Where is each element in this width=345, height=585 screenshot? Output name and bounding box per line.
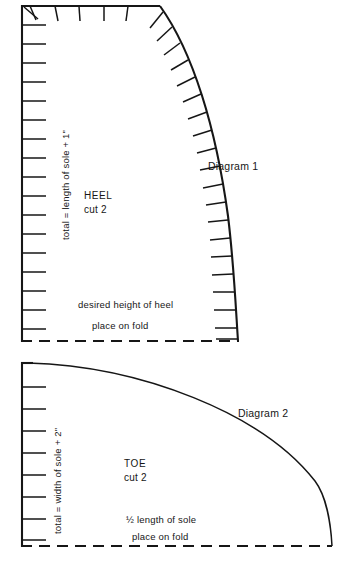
pattern-sheet: Diagram 1 HEEL cut 2 total = length of s… [0, 0, 345, 585]
d1-right-curved-edge [160, 6, 238, 341]
diagram-2-cut-note: cut 2 [124, 473, 147, 484]
diagram-2-piece-name: TOE [124, 459, 146, 470]
diagram-2-length-note: ½ length of sole [126, 515, 196, 525]
diagram-1-outline [21, 5, 239, 342]
diagram-1-cut-note: cut 2 [84, 205, 107, 216]
d1-top-ticks [30, 6, 128, 21]
diagram-2-title: Diagram 2 [238, 408, 288, 419]
d1-left-ticks [22, 25, 46, 329]
diagram-1-height-note: desired height of heel [78, 300, 173, 310]
diagram-2-side-measure-label: total = width of sole + 2" [52, 428, 63, 534]
diagram-1-side-measure-label: total = length of sole + 1" [60, 130, 71, 240]
diagram-2-fold-note: place on fold [132, 532, 188, 542]
d1-right-ticks [150, 12, 238, 339]
diagram-1-title: Diagram 1 [208, 161, 258, 172]
diagram-1-fold-note: place on fold [92, 321, 148, 331]
diagram-1-piece-name: HEEL [84, 191, 113, 202]
d2-left-ticks [22, 387, 46, 540]
